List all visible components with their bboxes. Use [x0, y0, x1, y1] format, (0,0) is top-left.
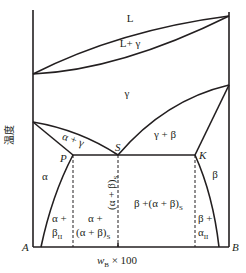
gamma-beta-lower-boundary — [195, 85, 229, 155]
region-alpha-betaII-line2: βII — [52, 226, 63, 241]
svg-text:温度: 温度 — [3, 125, 15, 145]
component-b-label: B — [232, 241, 239, 253]
region-alpha-gamma: α + γ — [61, 130, 86, 149]
region-gamma: γ — [124, 87, 130, 99]
region-gamma-beta: γ + β — [153, 128, 177, 140]
region-beta-alphaII-line1: β + — [198, 212, 213, 224]
region-alpha-eutectoid-line2: (α + β)S — [76, 226, 110, 241]
region-alpha-betaII-line1: α + — [52, 212, 67, 224]
point-k-label: K — [198, 149, 207, 161]
region-beta: β — [212, 168, 218, 180]
region-beta-alphaII-line2: αII — [198, 226, 209, 241]
phase-diagram: L L+ γ γ α + γ γ + β α β P S K (α + β)S … — [0, 0, 246, 273]
point-p-label: P — [59, 152, 67, 164]
point-s-label: S — [115, 141, 121, 153]
x-axis-label: wB × 100 — [97, 254, 138, 269]
region-beta-eutectoid: β +(α + β)S — [134, 197, 183, 212]
region-alpha: α — [42, 170, 48, 182]
component-a-label: A — [21, 241, 29, 253]
region-liquid-gamma: L+ γ — [120, 37, 141, 49]
region-liquid: L — [127, 12, 134, 24]
region-alpha-eutectoid-line1: α + — [88, 212, 103, 224]
y-axis-label: 温度 — [3, 125, 15, 145]
